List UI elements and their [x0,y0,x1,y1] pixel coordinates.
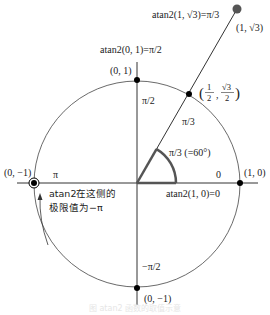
atan2-unit-circle-diagram: atan2(1, √3)=π/3 (1, √3) atan2(0, 1)=π/2… [0,0,270,315]
top-point-dot [134,77,140,83]
right-paren: ) [235,85,240,102]
angle-arc-ray [137,149,157,183]
figure-caption: 图 atan2 函数的取值示意 [0,302,270,313]
far-point-dot [233,5,242,14]
pi-label: π [53,169,58,180]
comma: , [216,89,219,100]
bottom-point-dot [134,285,140,291]
frac1-den: 2 [207,93,211,103]
unit-point-label: ( 1 2 , √3 2 ) [199,82,240,103]
ray-formula-label: atan2(1, √3)=π/3 [152,9,219,21]
top-formula-label: atan2(0, 1)=π/2 [100,44,162,56]
far-point-label: (1, √3) [236,22,263,34]
ray-pi-over-3-label: π/3 [182,116,195,127]
zero-label: 0 [216,169,221,180]
left-paren: ( [199,85,204,102]
frac2-den: 2 [225,93,229,103]
neg-pi-over-2-label: −π/2 [142,261,160,272]
pi-over-2-label: π/2 [142,95,155,106]
limit-note-line2: 极限值为−π [49,202,103,213]
left-point-label: (0, −1) [4,167,31,179]
frac1-num: 1 [207,82,211,92]
limit-note-line1: atan2在这侧的 [49,188,116,199]
angle-label: π/3 (=60°) [169,147,211,159]
top-point-label: (0, 1) [110,65,132,77]
right-point-dot [237,180,243,186]
left-point-dot [31,180,37,186]
right-point-label: (1, 0) [244,167,266,179]
arrow-head-icon [38,193,43,200]
limit-arrow [40,196,48,245]
right-formula-label: atan2(1, 0)=0 [166,188,220,200]
frac2-num: √3 [222,82,231,92]
unit-point-dot [186,91,192,97]
